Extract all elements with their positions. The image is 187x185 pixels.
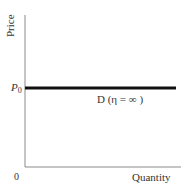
p0-main: P (11, 81, 18, 93)
origin-label: 0 (14, 172, 19, 182)
demand-curve-label: D (η = ∞ ) (97, 94, 143, 105)
chart-canvas (0, 0, 187, 185)
price-p0-label: P0 (11, 82, 22, 95)
p0-sub: 0 (18, 86, 22, 95)
x-axis-label: Quantity (132, 172, 171, 183)
y-axis-label: Price (5, 14, 16, 37)
